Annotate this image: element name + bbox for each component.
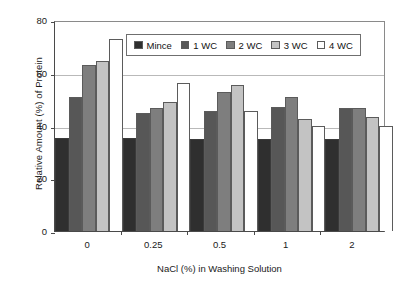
bar[interactable]: [258, 139, 272, 231]
bar-group: [55, 22, 123, 231]
bar[interactable]: [271, 107, 285, 231]
legend-label: 3 WC: [284, 40, 308, 51]
x-axis-title: NaCl (%) in Washing Solution: [54, 263, 385, 274]
bar[interactable]: [379, 126, 393, 231]
bar[interactable]: [244, 111, 258, 231]
category-separator-tick: [320, 231, 321, 235]
bar[interactable]: [190, 139, 204, 231]
bar[interactable]: [339, 108, 353, 231]
category-separator-tick: [187, 231, 188, 235]
legend-item[interactable]: 3 WC: [271, 40, 307, 51]
bar[interactable]: [55, 138, 69, 231]
legend-swatch-icon: [181, 41, 190, 50]
legend-item[interactable]: 1 WC: [181, 40, 217, 51]
x-tick-label: 0.5: [186, 239, 252, 250]
bar[interactable]: [109, 39, 123, 231]
y-tick-mark: [51, 233, 55, 234]
bar[interactable]: [123, 138, 137, 231]
bar-chart: Relative Amount (%) of Protein 806040200…: [0, 0, 406, 293]
x-tick-label: 2: [319, 239, 385, 250]
y-tick-label: 40: [21, 122, 47, 131]
bar[interactable]: [312, 126, 326, 232]
category-separator-tick: [121, 231, 122, 235]
bar[interactable]: [217, 92, 231, 231]
legend-item[interactable]: 4 WC: [317, 40, 353, 51]
legend-label: 1 WC: [193, 40, 217, 51]
bar[interactable]: [352, 108, 366, 231]
x-tick-label: 1: [253, 239, 319, 250]
bar[interactable]: [298, 119, 312, 231]
legend-item[interactable]: 2 WC: [226, 40, 262, 51]
y-tick-label: 60: [21, 69, 47, 78]
bar[interactable]: [136, 113, 150, 231]
y-tick-label: 20: [21, 174, 47, 183]
bar[interactable]: [204, 111, 218, 231]
x-tick-label: 0: [54, 239, 120, 250]
legend-item[interactable]: Mince: [134, 40, 172, 51]
bar[interactable]: [69, 97, 83, 231]
x-tick-label: 0.25: [120, 239, 186, 250]
legend-label: 4 WC: [329, 40, 353, 51]
y-tick-label: 0: [21, 227, 47, 236]
bar[interactable]: [285, 97, 299, 232]
bar[interactable]: [177, 83, 191, 231]
bar[interactable]: [96, 61, 110, 231]
bar[interactable]: [231, 85, 245, 231]
category-separator-tick: [254, 231, 255, 235]
legend-swatch-icon: [134, 41, 143, 50]
legend-swatch-icon: [271, 41, 280, 50]
legend-swatch-icon: [226, 41, 235, 50]
legend-label: Mince: [147, 40, 172, 51]
y-tick-label: 80: [21, 16, 47, 25]
legend-label: 2 WC: [239, 40, 263, 51]
bar[interactable]: [150, 108, 164, 231]
bar[interactable]: [163, 102, 177, 231]
legend-swatch-icon: [317, 41, 326, 50]
bar[interactable]: [82, 65, 96, 231]
x-axis-tick-labels: 00.250.512: [54, 239, 385, 250]
legend: Mince1 WC2 WC3 WC4 WC: [126, 34, 361, 56]
bar[interactable]: [325, 139, 339, 231]
bar[interactable]: [366, 117, 380, 231]
